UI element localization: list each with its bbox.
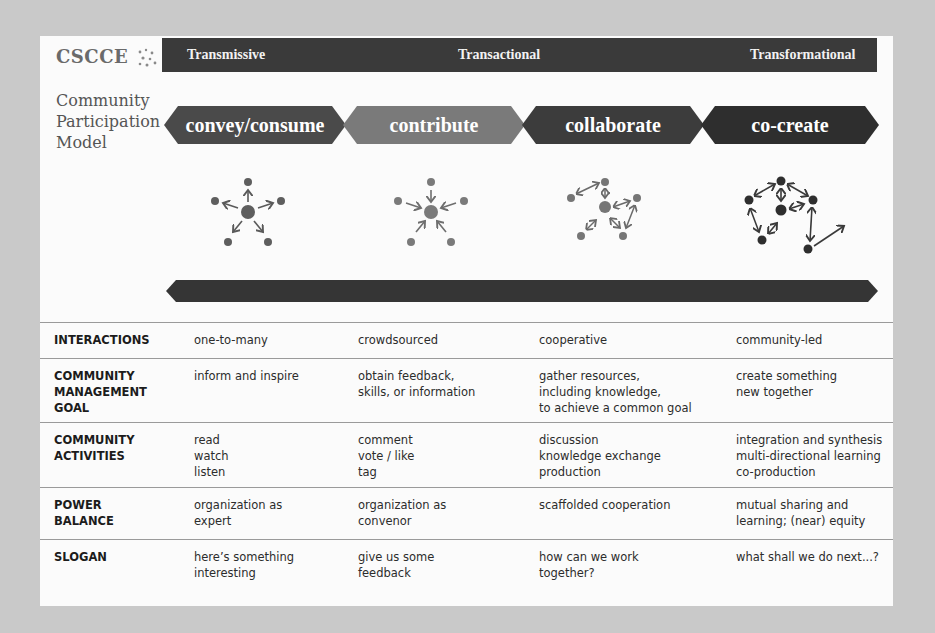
row-label: SLOGAN bbox=[54, 549, 107, 565]
model-table: INTERACTIONS one-to-many crowdsourced co… bbox=[40, 322, 893, 600]
table-cell: obtain feedback, skills, or information bbox=[358, 368, 475, 400]
mode-co-create: co-create bbox=[701, 106, 879, 144]
table-cell: mutual sharing and learning; (near) equi… bbox=[736, 497, 865, 529]
table-cell: one-to-many bbox=[194, 332, 268, 348]
inward-arrows-icon bbox=[391, 176, 471, 251]
spectrum-label-transformational: Transformational bbox=[750, 47, 856, 63]
table-cell: inform and inspire bbox=[194, 368, 299, 384]
table-cell: give us some feedback bbox=[358, 549, 434, 581]
row-label: INTERACTIONS bbox=[54, 332, 150, 348]
table-cell: discussion knowledge exchange production bbox=[539, 432, 661, 480]
row-label: COMMUNITY MANAGEMENT GOAL bbox=[54, 368, 147, 416]
mode-convey-consume: convey/consume bbox=[164, 106, 346, 144]
participation-modes: convey/consume contribute collaborate co… bbox=[164, 106, 884, 144]
table-cell: comment vote / like tag bbox=[358, 432, 414, 480]
table-cell: organization as expert bbox=[194, 497, 282, 529]
cscce-logo: CSCCE bbox=[56, 46, 128, 67]
model-title: Community Participation Model bbox=[56, 90, 160, 153]
row-label: POWER BALANCE bbox=[54, 497, 114, 529]
table-cell: crowdsourced bbox=[358, 332, 438, 348]
table-cell: gather resources, including knowledge, t… bbox=[539, 368, 692, 416]
progression-arrow-bar bbox=[166, 280, 878, 302]
table-cell: create something new together bbox=[736, 368, 837, 400]
table-row-management-goal: COMMUNITY MANAGEMENT GOAL inform and ins… bbox=[40, 358, 893, 422]
bidirectional-network-icon bbox=[562, 176, 642, 251]
table-row-interactions: INTERACTIONS one-to-many crowdsourced co… bbox=[40, 322, 893, 358]
table-cell: cooperative bbox=[539, 332, 607, 348]
interaction-diagrams bbox=[40, 176, 893, 286]
table-cell: community-led bbox=[736, 332, 822, 348]
network-dots-icon bbox=[136, 48, 158, 68]
participation-spectrum-bar: Transmissive Transactional Transformatio… bbox=[162, 38, 877, 72]
table-row-activities: COMMUNITY ACTIVITIES read watch listen c… bbox=[40, 422, 893, 487]
table-cell: read watch listen bbox=[194, 432, 229, 480]
row-label: COMMUNITY ACTIVITIES bbox=[54, 432, 135, 464]
spectrum-label-transactional: Transactional bbox=[458, 47, 540, 63]
co-creation-network-icon bbox=[740, 176, 850, 256]
table-row-slogan: SLOGAN here’s something interesting give… bbox=[40, 539, 893, 600]
table-cell: organization as convenor bbox=[358, 497, 446, 529]
table-cell: scaffolded cooperation bbox=[539, 497, 670, 513]
table-row-power-balance: POWER BALANCE organization as expert org… bbox=[40, 487, 893, 539]
mode-collaborate: collaborate bbox=[522, 106, 704, 144]
mode-contribute: contribute bbox=[343, 106, 525, 144]
infographic-card: CSCCE Transmissive Transactional Transfo… bbox=[40, 36, 893, 606]
table-cell: what shall we do next...? bbox=[736, 549, 879, 565]
broadcast-outward-arrows-icon bbox=[208, 176, 288, 251]
table-cell: here’s something interesting bbox=[194, 549, 294, 581]
table-cell: integration and synthesis multi-directio… bbox=[736, 432, 882, 480]
spectrum-label-transmissive: Transmissive bbox=[187, 47, 265, 63]
table-cell: how can we work together? bbox=[539, 549, 639, 581]
